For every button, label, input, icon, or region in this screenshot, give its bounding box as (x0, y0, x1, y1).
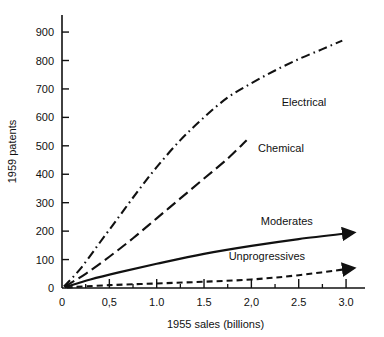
y-tick-label: 400 (36, 168, 54, 180)
y-tick-label: 900 (36, 26, 54, 38)
y-tick-label: 600 (36, 111, 54, 123)
series-line-moderates (65, 233, 354, 288)
y-tick-label: 500 (36, 140, 54, 152)
x-tick-label: 0 (59, 296, 65, 308)
y-tick-label: 800 (36, 55, 54, 67)
x-tick-label: 3.0 (338, 296, 353, 308)
patents-vs-sales-chart: 010020030040050060070080090000,51.01.52,… (0, 0, 384, 337)
series-line-unprogressives (67, 268, 354, 287)
x-tick-label: 1.0 (149, 296, 164, 308)
y-tick-label: 700 (36, 83, 54, 95)
x-axis-title: 1955 sales (billions) (167, 318, 264, 330)
y-tick-label: 0 (48, 282, 54, 294)
chart-canvas: 010020030040050060070080090000,51.01.52,… (0, 0, 384, 337)
series-label-moderates: Moderates (261, 215, 313, 227)
series-label-unprogressives: Unprogressives (229, 250, 306, 262)
x-tick-label: 1.5 (196, 296, 211, 308)
x-tick-label: 2,0 (244, 296, 259, 308)
x-tick-label: 0,5 (102, 296, 117, 308)
y-tick-label: 100 (36, 254, 54, 266)
y-tick-label: 200 (36, 225, 54, 237)
y-axis-title: 1959 patents (6, 119, 18, 183)
series-label-electrical: Electrical (282, 96, 327, 108)
x-tick-label: 2.5 (291, 296, 306, 308)
y-tick-label: 300 (36, 197, 54, 209)
series-label-chemical: Chemical (258, 142, 304, 154)
